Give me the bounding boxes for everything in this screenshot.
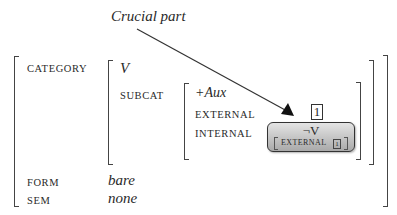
internal-value: ¬V xyxy=(268,123,354,139)
sem-label: SEM xyxy=(27,195,50,206)
aux-value: +Aux xyxy=(195,85,226,101)
category-left-bracket xyxy=(108,60,113,165)
outer-right-bracket xyxy=(383,55,388,207)
category-label: CATEGORY xyxy=(27,63,87,74)
subcat-label: SUBCAT xyxy=(120,90,164,101)
external-tag: 1 xyxy=(311,104,323,120)
arrow-icon xyxy=(0,0,397,215)
inner-right-bracket xyxy=(344,137,348,150)
inner-external-label: EXTERNAL xyxy=(281,138,326,147)
category-right-bracket xyxy=(369,60,374,165)
subcat-right-bracket xyxy=(356,82,361,160)
form-label: FORM xyxy=(27,177,59,188)
outer-left-bracket xyxy=(14,56,19,207)
external-label: EXTERNAL xyxy=(195,109,255,120)
subcat-left-bracket xyxy=(184,83,189,160)
inner-external-tag: 1 xyxy=(333,139,341,149)
internal-value-box: ¬V EXTERNAL 1 xyxy=(267,122,355,152)
internal-label: INTERNAL xyxy=(195,128,252,139)
form-value: bare xyxy=(108,172,135,189)
inner-left-bracket xyxy=(274,137,278,150)
sem-value: none xyxy=(108,190,137,207)
head-value: V xyxy=(120,60,129,77)
